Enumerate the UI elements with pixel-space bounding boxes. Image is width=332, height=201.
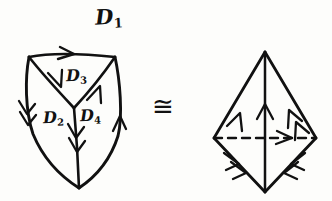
- label-d4: D4: [80, 108, 101, 125]
- label-d2: D2: [43, 110, 64, 127]
- congruence-symbol: ≅: [152, 91, 174, 121]
- upper-left-edge-arrowhead: [227, 113, 242, 131]
- lower-right-edge-arrows: [284, 153, 305, 179]
- label-d4-subscript: 4: [94, 115, 101, 126]
- lower-left-edge-arrows: [224, 153, 246, 179]
- label-d1-base: D: [94, 4, 114, 30]
- label-d1-subscript: 1: [113, 16, 123, 31]
- label-d3: D3: [66, 68, 87, 85]
- label-d1: D1: [94, 5, 122, 27]
- label-d2-base: D: [43, 108, 58, 127]
- label-d3-base: D: [66, 66, 81, 85]
- upper-left-edge: [214, 52, 265, 138]
- label-d3-subscript: 3: [80, 75, 87, 86]
- upper-left-edge-arrow: [227, 113, 242, 131]
- right-diagonal-arrow: [87, 86, 101, 103]
- label-d4-base: D: [80, 106, 95, 125]
- upper-right-edge: [265, 52, 316, 138]
- right-figure: [214, 52, 316, 192]
- left-diagonal-arrowhead: [48, 70, 62, 87]
- left-diagonal-arrow: [48, 70, 62, 87]
- upper-right-edge-arrows: [288, 110, 309, 140]
- right-diagonal-arrowhead: [87, 86, 101, 103]
- figure-root: D1 D3 D2 D4 ≅: [0, 0, 332, 201]
- label-d2-subscript: 2: [57, 117, 64, 128]
